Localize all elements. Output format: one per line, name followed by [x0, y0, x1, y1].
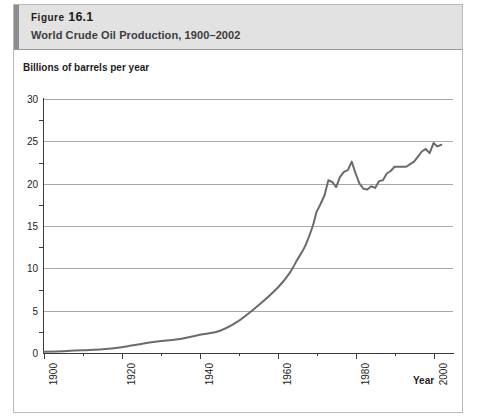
x-major-tick	[356, 353, 357, 359]
y-axis-title: Billions of barrels per year	[23, 62, 149, 73]
x-minor-tick	[317, 353, 318, 356]
y-tick-label: 25	[27, 136, 38, 147]
x-axis-title: Year	[413, 375, 434, 386]
figure-label: Figure 16.1	[31, 10, 93, 24]
figure-header-band: Figure 16.1 World Crude Oil Production, …	[14, 5, 462, 50]
x-tick-label: 1980	[360, 363, 371, 385]
chart-area: Billions of barrels per year 05101520253…	[14, 50, 462, 412]
x-minor-tick	[395, 353, 396, 356]
series-line-world-crude-oil-production	[44, 143, 441, 352]
x-major-tick	[434, 353, 435, 359]
x-tick-label: 1940	[204, 363, 215, 385]
y-tick-label: 5	[32, 305, 38, 316]
x-major-tick	[122, 353, 123, 359]
y-tick-label: 20	[27, 178, 38, 189]
y-tick-label: 30	[27, 94, 38, 105]
y-tick-label: 10	[27, 263, 38, 274]
x-tick-label: 1960	[282, 363, 293, 385]
x-tick-label: 2000	[438, 363, 449, 385]
header-accent-bar	[14, 5, 19, 49]
x-tick-label: 1900	[48, 363, 59, 385]
x-tick-label: 1920	[126, 363, 137, 385]
y-tick-label: 0	[32, 348, 38, 359]
figure-container: Figure 16.1 World Crude Oil Production, …	[13, 4, 463, 413]
x-axis-line	[43, 353, 454, 354]
x-minor-tick	[161, 353, 162, 356]
x-major-tick	[278, 353, 279, 359]
x-minor-tick	[83, 353, 84, 356]
x-major-tick	[200, 353, 201, 359]
figure-label-number: 16.1	[68, 10, 93, 24]
figure-subtitle: World Crude Oil Production, 1900–2002	[31, 29, 241, 41]
series-svg	[44, 99, 453, 353]
x-major-tick	[44, 353, 45, 359]
figure-label-prefix: Figure	[31, 12, 65, 23]
plot-region: 051015202530 190019201940196019802000	[44, 99, 453, 353]
y-tick-label: 15	[27, 221, 38, 232]
x-minor-tick	[239, 353, 240, 356]
